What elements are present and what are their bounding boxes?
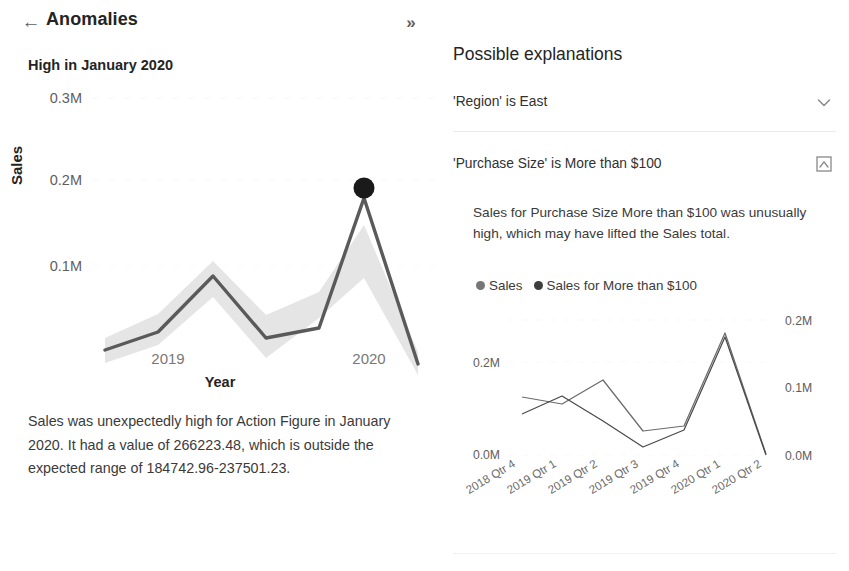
mini-right-tick-0.1M: 0.1M — [785, 381, 812, 395]
legend-label-sales: Sales — [489, 278, 523, 293]
explanation-mini-chart[interactable]: 0.2M 0.0M 0.2M 0.1M 0.0M 2018 Qtr 4 2019… — [440, 300, 849, 540]
mini-right-tick-0.0M: 0.0M — [785, 449, 812, 463]
anomalies-insight-page: ← Anomalies » High in January 2020 Sales… — [0, 0, 849, 571]
anomaly-description: Sales was unexpectedly high for Action F… — [28, 410, 426, 481]
mini-left-tick-0.0M: 0.0M — [473, 448, 500, 462]
legend-item-sales[interactable]: Sales — [476, 278, 523, 293]
explanation-label: 'Region' is East — [453, 94, 547, 109]
chevron-down-icon[interactable] — [812, 90, 836, 114]
x-axis-title: Year — [0, 374, 440, 390]
arrow-left-icon[interactable]: ← — [20, 11, 42, 33]
mini-gridlines — [508, 320, 770, 455]
panel-bottom-divider — [453, 553, 836, 554]
gridlines — [92, 98, 435, 266]
main-chart-svg: 0.3M 0.2M 0.1M 2019 2020 — [0, 80, 440, 380]
explanation-label: 'Purchase Size' is More than $100 — [453, 156, 662, 171]
left-pane: ← Anomalies » High in January 2020 Sales… — [0, 0, 440, 571]
mini-chart-legend: Sales Sales for More than $100 — [476, 275, 697, 295]
legend-item-sales-more-than[interactable]: Sales for More than $100 — [534, 278, 697, 293]
legend-label-sales-more-than: Sales for More than $100 — [547, 278, 697, 293]
page-title: Anomalies — [46, 9, 138, 30]
x-tick-2020: 2020 — [352, 350, 385, 367]
y-tick-0.2M: 0.2M — [50, 172, 82, 188]
mini-right-tick-0.2M: 0.2M — [785, 314, 812, 328]
pane-header: ← Anomalies » — [20, 9, 430, 39]
x-tick-2019: 2019 — [151, 350, 184, 367]
possible-explanations-title: Possible explanations — [453, 44, 622, 65]
legend-swatch-sales — [476, 281, 485, 290]
y-tick-0.1M: 0.1M — [50, 258, 82, 274]
mini-chart-svg: 0.2M 0.0M 0.2M 0.1M 0.0M 2018 Qtr 4 2019… — [440, 300, 849, 540]
collapse-box-chevron-up-icon[interactable] — [812, 152, 836, 176]
y-tick-0.3M: 0.3M — [50, 90, 82, 106]
explanation-row-purchase-size[interactable]: 'Purchase Size' is More than $100 — [453, 150, 836, 184]
explanation-row-region[interactable]: 'Region' is East — [453, 88, 836, 122]
explanation-body-text: Sales for Purchase Size More than $100 w… — [473, 202, 833, 244]
legend-swatch-sales-more-than — [534, 281, 543, 290]
double-chevron-right-icon[interactable]: » — [399, 12, 423, 34]
explanation-divider — [453, 131, 836, 132]
anomaly-point-marker[interactable] — [354, 178, 375, 199]
main-anomaly-chart[interactable]: 0.3M 0.2M 0.1M 2019 2020 — [0, 80, 440, 380]
mini-left-tick-0.2M: 0.2M — [473, 356, 500, 370]
chart-title: High in January 2020 — [28, 57, 173, 73]
mini-series-sales-more-than-100 — [522, 337, 766, 455]
mini-x-tick-labels: 2018 Qtr 4 2019 Qtr 1 2019 Qtr 2 2019 Qt… — [463, 456, 763, 496]
